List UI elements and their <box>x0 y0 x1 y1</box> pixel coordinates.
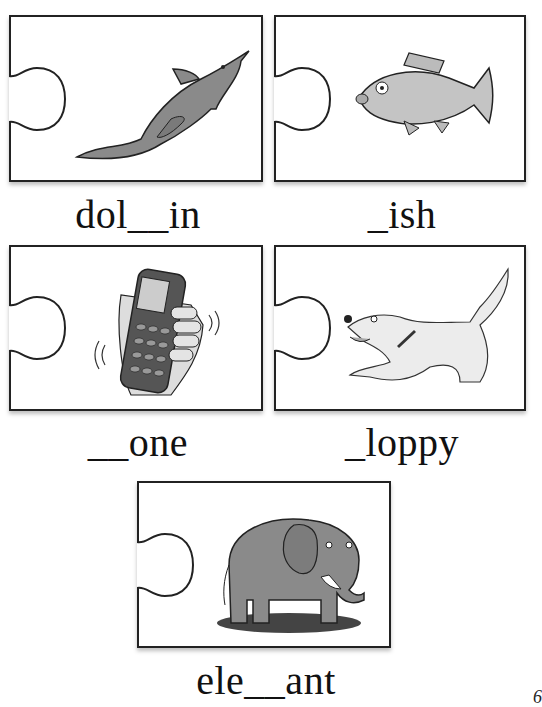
puzzle-card-dolphin: dol__in <box>9 15 263 182</box>
mobile-phone-icon <box>91 265 231 400</box>
puzzle-notch-icon <box>274 64 332 134</box>
dog-icon <box>340 267 520 397</box>
puzzle-card-dog: _loppy <box>274 245 526 411</box>
puzzle-notch-icon <box>9 64 67 134</box>
elephant-icon <box>209 505 369 635</box>
fill-in-word: __one <box>11 423 265 463</box>
dolphin-icon <box>71 39 251 164</box>
page-number: 6 <box>533 687 542 707</box>
fill-in-word: ele__ant <box>139 661 393 701</box>
puzzle-notch-icon <box>274 293 332 363</box>
puzzle-notch-icon <box>137 530 195 600</box>
puzzle-notch-icon <box>9 293 67 363</box>
puzzle-card-fish: _ish <box>274 15 526 182</box>
fill-in-word: dol__in <box>11 195 265 235</box>
fill-in-word: _ish <box>276 195 528 235</box>
fill-in-word: _loppy <box>276 423 528 463</box>
puzzle-card-phone: __one <box>9 245 263 411</box>
puzzle-card-elephant: ele__ant <box>137 481 391 648</box>
fish-icon <box>354 43 499 143</box>
